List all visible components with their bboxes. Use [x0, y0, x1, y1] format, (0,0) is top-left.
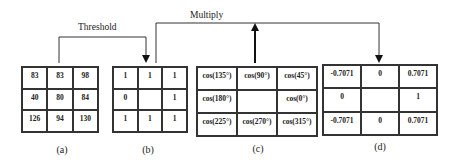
grid-cell: cos(315°)	[277, 113, 317, 136]
multiply-arrowhead-down-icon	[375, 55, 383, 63]
grid-cell: 40	[22, 89, 47, 111]
grid-cell: cos(180°)	[197, 90, 237, 113]
multiply-label: Multiply	[190, 10, 223, 20]
grid-cell: cos(225°)	[197, 113, 237, 136]
grid-cell: 84	[73, 89, 98, 111]
threshold-label: Threshold	[78, 22, 117, 32]
grid-cell: 0.7071	[399, 112, 437, 135]
grid-cell: 126	[22, 110, 47, 132]
grid-cell	[138, 89, 163, 111]
caption-b: (b)	[133, 144, 163, 155]
grid-cell: 1	[113, 110, 138, 132]
grid-b: 1 1 1 0 1 1 1 1	[112, 66, 188, 133]
grid-cell: -0.7071	[323, 65, 361, 88]
grid-cell: 83	[22, 67, 47, 89]
grid-cell: 94	[47, 110, 72, 132]
grid-cell: 0	[113, 89, 138, 111]
grid-cell: 1	[399, 88, 437, 111]
grid-cell	[237, 90, 277, 113]
caption-c: (c)	[243, 143, 273, 154]
grid-cell	[361, 88, 399, 111]
grid-cell: 83	[47, 67, 72, 89]
grid-d: -0.7071 0 0.7071 0 1 -0.7071 0 0.7071	[322, 64, 438, 136]
caption-d: (d)	[365, 141, 395, 152]
grid-cell: 80	[47, 89, 72, 111]
grid-cell: cos(45°)	[277, 67, 317, 90]
threshold-connector	[59, 37, 146, 63]
grid-a: 83 83 98 40 80 84 126 94 130	[21, 66, 99, 133]
grid-cell: cos(270°)	[237, 113, 277, 136]
grid-cell: -0.7071	[323, 112, 361, 135]
grid-cell: 0	[323, 88, 361, 111]
grid-cell: cos(135°)	[197, 67, 237, 90]
grid-cell: 0	[361, 65, 399, 88]
grid-cell: 0	[361, 112, 399, 135]
grid-c: cos(135°) cos(90°) cos(45°) cos(180°) co…	[196, 66, 318, 137]
caption-a: (a)	[47, 144, 77, 155]
grid-cell: cos(90°)	[237, 67, 277, 90]
grid-cell: 130	[73, 110, 98, 132]
multiply-arrowhead-up-icon	[251, 23, 259, 31]
grid-cell: 1	[138, 110, 163, 132]
grid-cell: 1	[138, 67, 163, 89]
grid-cell: 1	[162, 67, 187, 89]
multiply-connector	[156, 23, 379, 63]
grid-cell: 98	[73, 67, 98, 89]
grid-cell: 1	[162, 110, 187, 132]
grid-cell: cos(0°)	[277, 90, 317, 113]
threshold-arrowhead-icon	[142, 55, 150, 63]
grid-cell: 0.7071	[399, 65, 437, 88]
grid-cell: 1	[162, 89, 187, 111]
grid-cell: 1	[113, 67, 138, 89]
